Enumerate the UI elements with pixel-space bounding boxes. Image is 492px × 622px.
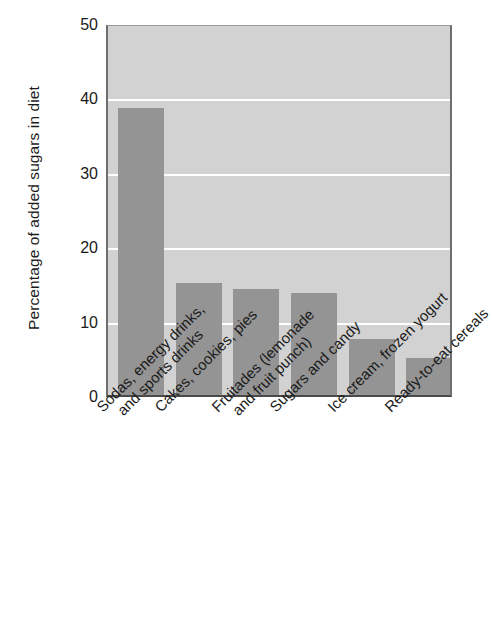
y-axis-title: Percentage of added sugars in diet: [25, 22, 43, 394]
y-axis-tick-50: 50: [44, 17, 98, 33]
y-axis-tick-30: 30: [44, 166, 98, 182]
y-axis-tick-40: 40: [44, 91, 98, 107]
y-axis-tick-20: 20: [44, 240, 98, 256]
gridline-40: [108, 99, 450, 101]
x-axis-category-labels: Sodas, energy drinks,and sports drinksCa…: [0, 397, 472, 622]
y-axis-tick-10: 10: [44, 315, 98, 331]
